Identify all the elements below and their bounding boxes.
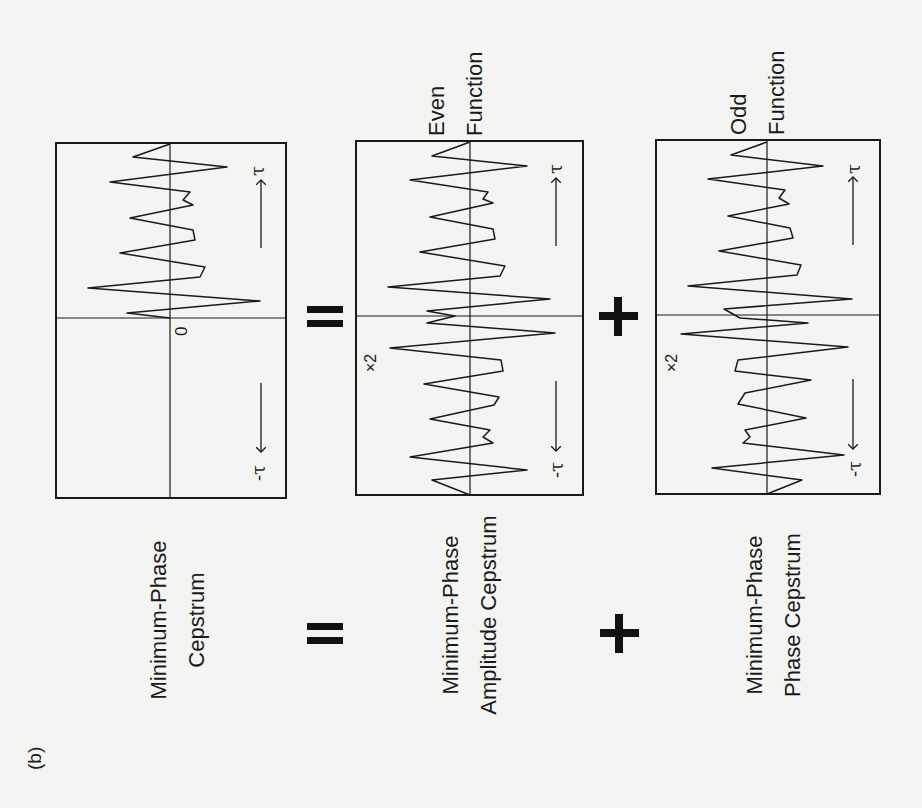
title-line-1: Minimum-Phase	[736, 500, 774, 730]
scale-factor-label: ×2	[663, 354, 681, 372]
panel-1-title: Minimum-Phase Cepstrum	[140, 520, 216, 720]
title-line-1: Minimum-Phase	[432, 490, 470, 740]
panel-phase-cepstrum	[656, 140, 880, 494]
equals-operator-caption	[307, 623, 343, 644]
tau-positive-label: τ	[247, 166, 268, 176]
panel-letter-label: (b)	[24, 747, 46, 770]
panel-minimum-phase-cepstrum	[56, 143, 286, 498]
even-function-annotation: Function	[462, 52, 488, 136]
panel-amplitude-cepstrum	[356, 141, 583, 495]
title-line-2: Cepstrum	[178, 520, 216, 720]
panel-2-title: Minimum-Phase Amplitude Cepstrum	[432, 490, 508, 740]
cepstrum-trace	[88, 144, 260, 318]
even-annotation: Even	[424, 86, 450, 136]
title-line-1: Minimum-Phase	[140, 520, 178, 720]
odd-function-annotation: Function	[764, 51, 790, 135]
equals-operator-plot	[307, 306, 343, 327]
title-line-2: Phase Cepstrum	[774, 500, 812, 730]
plot-frame	[56, 143, 286, 498]
tau-negative-label: -τ	[844, 461, 865, 477]
tau-negative-label: -τ	[248, 465, 269, 481]
tau-negative-label: -τ	[546, 462, 567, 478]
odd-annotation: Odd	[726, 93, 752, 135]
zero-tick-label: 0	[172, 327, 192, 336]
panel-3-title: Minimum-Phase Phase Cepstrum	[736, 500, 812, 730]
title-line-2: Amplitude Cepstrum	[470, 490, 508, 740]
plus-operator-plot	[599, 297, 638, 336]
scale-factor-label: ×2	[362, 354, 380, 372]
tau-positive-label: τ	[545, 164, 566, 174]
even-function-trace	[388, 142, 555, 495]
tau-positive-label: τ	[843, 164, 864, 174]
plot-frame	[656, 140, 880, 494]
plus-operator-caption	[600, 614, 639, 653]
